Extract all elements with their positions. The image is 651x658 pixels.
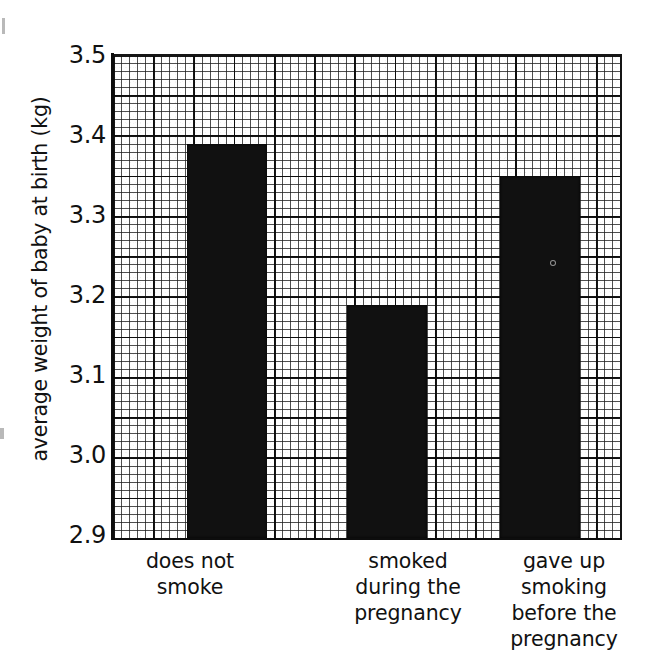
- y-tick-label-2-9: 2.9: [44, 523, 106, 547]
- y-tick-label-3-1: 3.1: [44, 363, 106, 387]
- scan-artifact-dot: [550, 260, 556, 266]
- x-axis-line: [111, 538, 622, 541]
- y-axis-line: [111, 53, 114, 540]
- x-label-gave-up-smoking: gave up smoking before the pregnancy: [479, 548, 649, 652]
- plot-border-top: [113, 54, 622, 56]
- y-tick-label-3-5: 3.5: [44, 43, 106, 67]
- x-label-line: smoking: [479, 574, 649, 600]
- y-tick-label-3-4: 3.4: [44, 123, 106, 147]
- y-tick-label-3-0: 3.0: [44, 443, 106, 467]
- bar-smoked-during-pregnancy: [347, 305, 427, 538]
- scan-artifact-left: [0, 428, 4, 439]
- x-label-line: pregnancy: [328, 600, 488, 626]
- x-axis-category-labels: does not smoke smoked during the pregnan…: [113, 548, 622, 658]
- x-label-line: gave up: [479, 548, 649, 574]
- x-label-line: before the: [479, 600, 649, 626]
- x-label-line: during the: [328, 574, 488, 600]
- bar-does-not-smoke: [187, 144, 267, 538]
- bar-chart-figure: average weight of baby at birth (kg) 3.5…: [0, 0, 651, 658]
- x-label-does-not-smoke: does not smoke: [95, 548, 285, 600]
- y-tick-label-3-3: 3.3: [44, 203, 106, 227]
- y-tick-label-3-2: 3.2: [44, 283, 106, 307]
- plot-area: [113, 55, 622, 538]
- x-label-smoked-during-pregnancy: smoked during the pregnancy: [328, 548, 488, 626]
- x-label-line: smoked: [328, 548, 488, 574]
- bar-gave-up-smoking-before-pregnancy: [500, 176, 580, 538]
- x-label-line: smoke: [95, 574, 285, 600]
- scan-artifact-top: [2, 18, 5, 34]
- x-label-line: does not: [95, 548, 285, 574]
- plot-border-right: [620, 55, 622, 538]
- x-label-line: pregnancy: [479, 626, 649, 652]
